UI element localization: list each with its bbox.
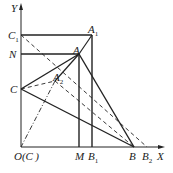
label-o: O(C ) xyxy=(14,151,39,162)
label-b1: B1 xyxy=(88,151,98,165)
label-m: M xyxy=(75,151,84,162)
geometry-figure xyxy=(0,0,173,173)
dashed-a2-b xyxy=(55,81,134,147)
dashed-c-a2 xyxy=(21,81,55,89)
label-b: B xyxy=(129,151,136,162)
label-c1: C1 xyxy=(8,30,19,44)
dashed-c1-b2 xyxy=(21,35,147,147)
label-n: N xyxy=(9,49,16,60)
label-b2: B2 xyxy=(142,151,152,165)
x-axis-arrow-icon xyxy=(158,145,165,149)
label-a2: A2 xyxy=(53,72,63,86)
label-a1: A1 xyxy=(88,24,98,38)
label-a: A xyxy=(73,45,80,56)
y-axis-arrow-icon xyxy=(19,3,23,10)
segment-c-a xyxy=(21,54,79,89)
label-x: X xyxy=(157,151,164,162)
label-c: C xyxy=(10,84,17,95)
label-y: Y xyxy=(11,3,17,14)
